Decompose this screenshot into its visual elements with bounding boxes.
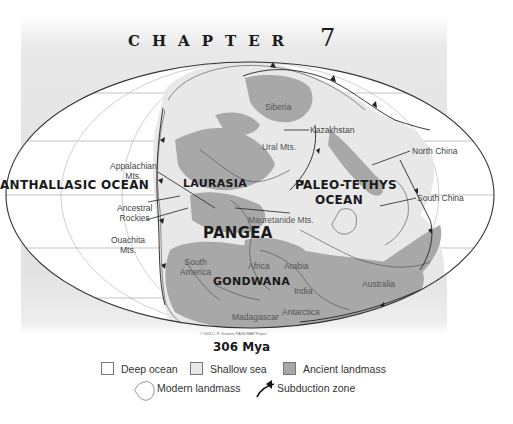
- appalachian-mts-label: Appalachian Mts.: [110, 161, 157, 181]
- ural-mts-label: Ural Mts.: [262, 142, 296, 152]
- siberia-label: Siberia: [265, 102, 291, 112]
- ancestral-rockies-line1: Ancestral: [117, 203, 152, 213]
- ouachita-mts-label: Ouachita Mts.: [111, 235, 145, 255]
- pangea-label: PANGEA: [203, 224, 273, 242]
- india-label: India: [294, 286, 312, 296]
- subduction-barb-icon: [266, 380, 272, 389]
- laurasia-label: LAURASIA: [183, 177, 247, 190]
- africa-label: Africa: [248, 261, 270, 271]
- legend-item-subduction-zone: Subduction zone: [277, 382, 355, 394]
- antarctica-label: Antarctica: [282, 307, 320, 317]
- ancient-landmass-swatch-icon: [283, 362, 296, 375]
- paleogeographic-map: [0, 0, 513, 424]
- copyright-text: © 2001 C. R. Scotese, PALEOMAP Project: [200, 332, 267, 336]
- madagascar-label: Madagascar: [232, 312, 279, 322]
- ouachita-line2: Mts.: [111, 245, 145, 255]
- shallow-sea-swatch-icon: [190, 362, 203, 375]
- time-label: 306 Mya: [213, 340, 270, 354]
- ancestral-rockies-line2: Rockies: [117, 213, 152, 223]
- mauretanide-mts-label: Mauretanide Mts.: [248, 215, 314, 225]
- south-china-label: South China: [417, 193, 464, 203]
- legend-label: Deep ocean: [121, 363, 178, 375]
- paleo-tethys-label-line2: OCEAN: [315, 193, 363, 207]
- ouachita-line1: Ouachita: [111, 235, 145, 245]
- legend-label: Modern landmass: [157, 382, 240, 394]
- south-america-line1: South: [180, 257, 211, 267]
- paleo-tethys-label-line1: PALEO-TETHYS: [295, 178, 397, 192]
- legend-label: Subduction zone: [277, 382, 355, 394]
- kazakhstan-label: Kazakhstan: [310, 125, 354, 135]
- south-america-label: South America: [180, 257, 211, 277]
- gondwana-label: GONDWANA: [213, 275, 290, 288]
- deep-ocean-swatch-icon: [101, 362, 114, 375]
- ancestral-rockies-label: Ancestral Rockies: [117, 203, 152, 223]
- legend-item-deep-ocean: Deep ocean: [101, 362, 178, 375]
- legend-label: Shallow sea: [210, 363, 267, 375]
- australia-label: Australia: [362, 279, 395, 289]
- arabia-label: Arabia: [284, 261, 309, 271]
- legend-item-shallow-sea: Shallow sea: [190, 362, 267, 375]
- legend-item-ancient-landmass: Ancient landmass: [283, 362, 386, 375]
- appalachian-line1: Appalachian: [110, 161, 157, 171]
- south-america-line2: America: [180, 267, 211, 277]
- legend-item-modern-landmass: Modern landmass: [157, 382, 240, 394]
- modern-landmass-legend-icon: [135, 382, 154, 401]
- appalachian-line2: Mts.: [110, 171, 157, 181]
- legend-label: Ancient landmass: [303, 363, 386, 375]
- north-china-label: North China: [412, 146, 457, 156]
